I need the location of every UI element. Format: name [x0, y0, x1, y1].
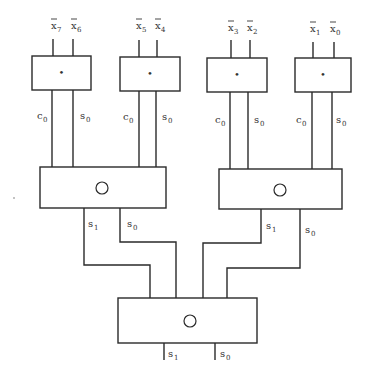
level3-box	[118, 298, 257, 343]
input-label-x5: x 5	[136, 19, 146, 34]
dot-operator-icon: •	[147, 68, 153, 79]
svg-text:0: 0	[221, 120, 225, 128]
svg-text:s: s	[254, 114, 259, 125]
input-label-x6: x 6	[71, 19, 82, 34]
svg-text:0: 0	[129, 117, 133, 125]
svg-text:3: 3	[234, 28, 238, 36]
svg-text:7: 7	[57, 26, 61, 34]
level2-output-labels: s 1 s 0 s 1 s 0	[88, 218, 315, 238]
svg-text:0: 0	[168, 117, 172, 125]
level1-output-wires	[52, 90, 332, 169]
dot-operator-icon: •	[234, 69, 240, 80]
svg-text:1: 1	[94, 224, 98, 232]
input-labels: x 7 x 6 x 5 x 4 x 3 x 2 x	[51, 19, 340, 37]
dot-operator-icon: •	[320, 69, 326, 80]
level2-box-left	[40, 167, 166, 208]
dot-operator-icon: •	[59, 67, 65, 78]
final-outputs: s 1 s 0	[164, 343, 230, 362]
stray-mark	[13, 197, 15, 199]
svg-text:0: 0	[43, 116, 47, 124]
level1-output-labels: c 0 s 0 c 0 s 0 c 0 s 0 c 0 s 0	[37, 110, 346, 128]
input-label-x3: x 3	[228, 21, 238, 36]
svg-text:0: 0	[260, 120, 264, 128]
svg-text:s: s	[168, 348, 173, 359]
svg-text:1: 1	[272, 226, 276, 234]
svg-text:0: 0	[86, 116, 90, 124]
svg-text:2: 2	[253, 28, 257, 36]
svg-text:s: s	[162, 111, 167, 122]
input-label-x7: x 7	[51, 19, 61, 34]
level2-box-right	[219, 169, 342, 209]
input-label-x1: x 1	[310, 22, 320, 37]
svg-text:0: 0	[133, 224, 137, 232]
svg-text:s: s	[220, 348, 225, 359]
svg-text:6: 6	[77, 26, 82, 34]
level1-box-3: •	[207, 58, 267, 92]
adder-tree-diagram: x 7 x 6 x 5 x 4 x 3 x 2 x	[0, 0, 366, 378]
svg-text:0: 0	[336, 29, 340, 37]
svg-text:1: 1	[174, 354, 178, 362]
svg-text:0: 0	[342, 120, 346, 128]
input-wires	[53, 39, 334, 58]
level1-box-4: •	[295, 58, 351, 92]
svg-text:0: 0	[311, 230, 315, 238]
level1-box-2: •	[120, 57, 180, 91]
svg-text:s: s	[127, 218, 132, 229]
input-label-x0: x 0	[330, 22, 340, 37]
svg-text:s: s	[266, 220, 271, 231]
level1-box-1: •	[32, 56, 91, 90]
svg-text:s: s	[305, 224, 310, 235]
svg-text:1: 1	[316, 29, 320, 37]
svg-text:4: 4	[161, 26, 166, 34]
svg-text:s: s	[80, 110, 85, 121]
input-label-x4: x 4	[155, 19, 166, 34]
svg-text:s: s	[88, 218, 93, 229]
svg-text:5: 5	[142, 26, 146, 34]
svg-text:0: 0	[302, 120, 306, 128]
svg-text:0: 0	[226, 354, 230, 362]
input-label-x2: x 2	[247, 21, 257, 36]
svg-text:s: s	[336, 114, 341, 125]
